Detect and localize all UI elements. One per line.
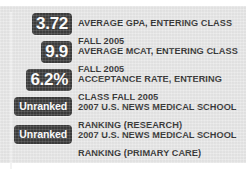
statistics-list: 3.72 AVERAGE GPA, ENTERING CLASS FALL 20…: [0, 6, 246, 151]
label-cell: 2007 U.S. NEWS MEDICAL SCHOOL RANKING (P…: [72, 123, 246, 160]
stat-label-ranking-primary-care: 2007 U.S. NEWS MEDICAL SCHOOL RANKING (P…: [78, 130, 236, 158]
stat-row: 9.9 AVERAGE MCAT, ENTERING CLASS FALL 20…: [0, 39, 246, 67]
stat-row: 6.2% ACCEPTANCE RATE, ENTERING CLASS FAL…: [0, 67, 246, 95]
stat-row: Unranked 2007 U.S. NEWS MEDICAL SCHOOL R…: [0, 95, 246, 123]
badge-cell: Unranked: [16, 95, 72, 116]
stat-badge-acceptance-rate: 6.2%: [26, 69, 72, 91]
stat-row: 3.72 AVERAGE GPA, ENTERING CLASS FALL 20…: [0, 11, 246, 39]
badge-cell: 3.72: [16, 11, 72, 35]
badge-cell: Unranked: [16, 123, 72, 144]
badge-cell: 6.2%: [16, 67, 72, 91]
stat-badge-average-mcat: 9.9: [41, 41, 72, 63]
stat-badge-ranking-research: Unranked: [14, 97, 72, 116]
badge-cell: 9.9: [16, 39, 72, 63]
statistics-panel: 3.72 AVERAGE GPA, ENTERING CLASS FALL 20…: [0, 6, 246, 163]
stat-badge-average-gpa: 3.72: [32, 13, 72, 35]
stat-badge-ranking-primary-care: Unranked: [14, 125, 72, 144]
stat-row: Unranked 2007 U.S. NEWS MEDICAL SCHOOL R…: [0, 123, 246, 151]
